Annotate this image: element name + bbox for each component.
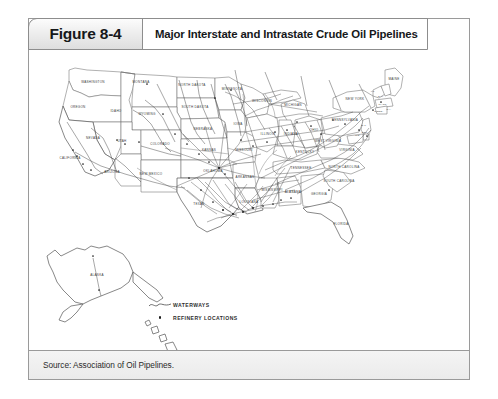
state-label: DEL.: [362, 131, 369, 134]
state-label: CONN.: [374, 110, 383, 113]
state-label: VIRGINIA: [339, 148, 355, 152]
figure-frame: Figure 8-4 Major Interstate and Intrasta…: [28, 18, 470, 380]
state-label: SOUTH DAKOTA: [181, 105, 209, 109]
state-label: MINNESOTA: [222, 87, 243, 91]
state-label: NEW YORK: [346, 97, 365, 101]
state-label: N.H.: [378, 95, 384, 98]
state-label: ARIZONA: [104, 170, 120, 174]
figure-number-cell: Figure 8-4: [29, 19, 143, 49]
figure-header-bar: Figure 8-4 Major Interstate and Intrasta…: [28, 18, 428, 50]
state-label: TENNESSEE: [291, 166, 312, 170]
state-label: ILLINOIS: [261, 132, 276, 136]
state-label: TEXAS: [193, 202, 204, 206]
state-label: NEVADA: [86, 136, 101, 140]
state-label: COLORADO: [150, 142, 170, 146]
state-label: FLORIDA: [333, 222, 349, 226]
state-label: WASHINGTON: [81, 80, 105, 84]
figure-title-cell: Major Interstate and Intrastate Crude Oi…: [143, 19, 427, 49]
state-label: INDIANA: [284, 132, 299, 136]
state-label: OKLAHOMA: [203, 169, 223, 173]
state-label: ALABAMA: [285, 190, 302, 194]
state-label: LOUISIANA: [240, 200, 259, 204]
state-label: ALASKA: [90, 273, 104, 277]
state-label: WISCONSIN: [252, 99, 272, 103]
state-label: PENNSYLVANIA: [332, 118, 359, 122]
state-label: MASS.: [379, 103, 388, 106]
figure-title-label: Major Interstate and Intrastate Crude Oi…: [155, 28, 418, 40]
state-label: VT.: [371, 90, 375, 93]
state-label: MISSISSIPPI: [261, 188, 282, 192]
legend-label-waterways: WATERWAYS: [173, 302, 210, 308]
state-label: R.I.: [387, 108, 392, 111]
state-label: KENTUCKY: [296, 150, 315, 154]
state-label: IOWA: [233, 122, 243, 126]
legend-label-refinery: REFINERY LOCATIONS: [173, 315, 238, 321]
source-bar: Source: Association of Oil Pipelines.: [28, 350, 470, 380]
refinery-dot-icon: [147, 313, 173, 323]
state-label: NORTH DAKOTA: [178, 83, 206, 87]
state-label: IDAHO: [110, 109, 121, 113]
state-label: GEORGIA: [311, 192, 328, 196]
alaska-inset: [47, 246, 163, 322]
waterway-line-icon: [147, 300, 173, 310]
state-label: CALIFORNIA: [59, 156, 81, 160]
legend-item-refinery: REFINERY LOCATIONS: [147, 311, 267, 324]
state-label: N.J.: [361, 124, 366, 127]
legend-item-waterways: WATERWAYS: [147, 298, 267, 311]
state-label: MONTANA: [133, 80, 151, 84]
state-label: KANSAS: [202, 148, 216, 152]
map-canvas: WASHINGTONOREGONIDAHOMONTANANORTH DAKOTA…: [29, 50, 469, 350]
state-label: UTAH: [117, 139, 126, 143]
state-label: WEST VIRGINIA: [315, 139, 342, 143]
state-label: MD.: [355, 134, 360, 137]
state-label: OREGON: [70, 105, 85, 109]
state-label: NEW MEXICO: [140, 172, 163, 176]
source-text: Source: Association of Oil Pipelines.: [43, 360, 174, 370]
state-label: MAINE: [388, 77, 399, 81]
figure-number-label: Figure 8-4: [49, 25, 121, 43]
map-legend: WATERWAYS REFINERY LOCATIONS: [147, 298, 267, 324]
state-label: MISSOURI: [235, 148, 252, 152]
state-label: NORTH CAROLINA: [328, 165, 360, 169]
state-label: SOUTH CAROLINA: [323, 179, 355, 183]
state-label: ARKANSAS: [236, 175, 255, 179]
hawaii-inset: [145, 320, 177, 350]
state-label: MICHIGAN: [284, 103, 301, 107]
state-label: WYOMING: [138, 112, 156, 116]
state-label: NEBRASKA: [194, 127, 214, 131]
state-label: OHIO: [310, 128, 319, 132]
